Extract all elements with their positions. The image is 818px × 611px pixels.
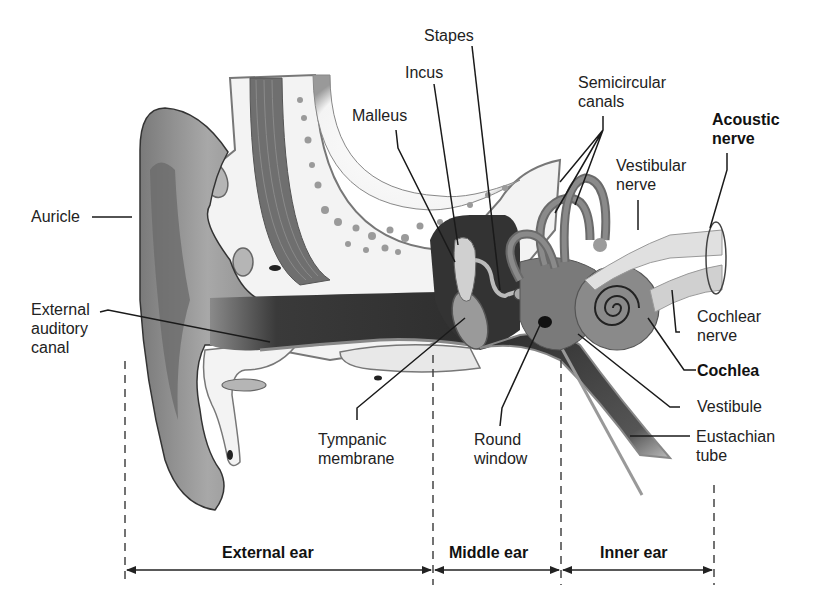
label-line: nerve	[697, 326, 761, 345]
label-line: Vestibular	[616, 156, 686, 175]
label-vestibule: Vestibule	[697, 397, 762, 416]
label-line: Acoustic	[712, 110, 780, 129]
label-line: nerve	[712, 129, 780, 148]
section-label-inner-ear: Inner ear	[600, 543, 668, 562]
label-line: tube	[696, 446, 775, 465]
label-round-window: Round window	[474, 430, 527, 468]
label-line: Semicircular	[578, 73, 666, 92]
label-line: nerve	[616, 175, 686, 194]
label-line: Cochlear	[697, 307, 761, 326]
label-line: External	[31, 300, 90, 319]
ear-illustration	[0, 0, 818, 611]
section-label-middle-ear: Middle ear	[449, 543, 528, 562]
eustachian-tube-shape	[480, 334, 670, 495]
label-line: Round	[474, 430, 527, 449]
label-line: auditory	[31, 319, 90, 338]
label-external-auditory-canal: External auditory canal	[31, 300, 90, 357]
label-cochlea: Cochlea	[697, 361, 759, 380]
label-line: Tympanic	[318, 430, 394, 449]
leader-acoustic	[710, 153, 727, 228]
label-malleus: Malleus	[352, 106, 407, 125]
label-stapes: Stapes	[424, 26, 474, 45]
label-line: window	[474, 449, 527, 468]
label-cochlear-nerve: Cochlear nerve	[697, 307, 761, 345]
label-line: Eustachian	[696, 427, 775, 446]
label-semicircular-canals: Semicircular canals	[578, 73, 666, 111]
label-acoustic-nerve: Acoustic nerve	[712, 110, 780, 148]
label-line: canal	[31, 338, 90, 357]
label-auricle: Auricle	[31, 207, 80, 226]
label-vestibular-nerve: Vestibular nerve	[616, 156, 686, 194]
label-incus: Incus	[405, 63, 443, 82]
label-line: canals	[578, 92, 666, 111]
label-tympanic-membrane: Tympanic membrane	[318, 430, 394, 468]
label-line: membrane	[318, 449, 394, 468]
section-label-external-ear: External ear	[222, 543, 314, 562]
label-eustachian-tube: Eustachian tube	[696, 427, 775, 465]
